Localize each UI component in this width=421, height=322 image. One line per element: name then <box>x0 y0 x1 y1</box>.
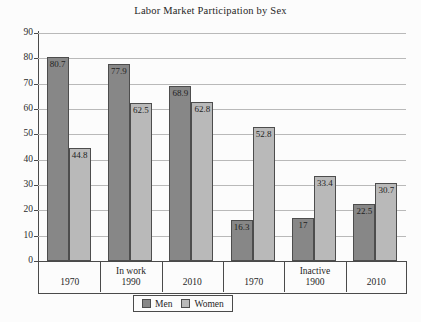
legend-label-men: Men <box>155 299 172 309</box>
chart-container: Labor Market Participation by Sex 010203… <box>0 0 421 322</box>
bar-men: 77.9 <box>108 64 130 261</box>
bars-layer: 80.744.877.962.568.962.816.352.81733.422… <box>38 33 406 261</box>
bar-women: 62.8 <box>191 102 213 261</box>
y-axis-labels: 0102030405060708090 <box>0 33 33 261</box>
bar-group: 22.530.7 <box>345 33 406 261</box>
bar-women: 62.5 <box>130 103 152 261</box>
bar-value-label: 68.9 <box>170 89 190 98</box>
y-axis-tick-label: 70 <box>3 79 33 89</box>
x-axis-category-band: 1970In work199020101970Inactive19002010 <box>38 261 407 294</box>
x-axis-category-label: 1970 <box>223 261 284 292</box>
x-axis-category-line: In work <box>116 266 146 278</box>
x-axis-category-line: 1990 <box>121 277 140 289</box>
y-axis-tick-label: 80 <box>3 53 33 63</box>
legend-item-men: Men <box>142 299 172 309</box>
bar-group: 77.962.5 <box>99 33 160 261</box>
bar-men: 17 <box>292 218 314 261</box>
bar-value-label: 30.7 <box>376 186 396 195</box>
y-axis-tick-label: 0 <box>3 256 33 266</box>
x-axis-category-label: Inactive1900 <box>284 261 345 292</box>
bar-value-label: 22.5 <box>354 207 374 216</box>
x-axis-category-line: Inactive <box>300 266 331 278</box>
legend-label-women: Women <box>194 299 223 309</box>
legend-item-women: Women <box>181 299 223 309</box>
bar-women: 33.4 <box>314 176 336 261</box>
bar-value-label: 77.9 <box>109 67 129 76</box>
bar-value-label: 62.5 <box>131 106 151 115</box>
x-axis-category-line: 1900 <box>305 277 324 289</box>
bar-women: 30.7 <box>375 183 397 261</box>
y-axis-tick-label: 30 <box>3 180 33 190</box>
bar-value-label: 52.8 <box>254 130 274 139</box>
legend-swatch-men-icon <box>142 299 151 308</box>
chart-title: Labor Market Participation by Sex <box>0 5 421 16</box>
x-axis-category-label: 2010 <box>346 261 407 292</box>
y-axis-tick-label: 20 <box>3 205 33 215</box>
x-axis-category-separator <box>162 261 163 292</box>
bar-group: 16.352.8 <box>222 33 283 261</box>
legend-swatch-women-icon <box>181 299 190 308</box>
x-axis-category-label: 2010 <box>162 261 223 292</box>
x-axis-category-separator <box>346 261 347 292</box>
bar-value-label: 16.3 <box>232 223 252 232</box>
bar-men: 80.7 <box>47 57 69 261</box>
bar-group: 80.744.8 <box>38 33 99 261</box>
bar-men: 16.3 <box>231 220 253 261</box>
y-axis-tick-label: 60 <box>3 104 33 114</box>
bar-value-label: 33.4 <box>315 179 335 188</box>
x-axis-category-separator <box>223 261 224 292</box>
x-axis-category-line: 1970 <box>60 277 79 289</box>
x-axis-category-label: In work1990 <box>100 261 161 292</box>
bar-group: 1733.4 <box>283 33 344 261</box>
y-axis-tick-label: 10 <box>3 231 33 241</box>
bar-men: 22.5 <box>353 204 375 261</box>
x-axis-category-line: 2010 <box>183 277 202 289</box>
y-axis-tick-label: 40 <box>3 155 33 165</box>
bar-value-label: 62.8 <box>192 105 212 114</box>
y-axis-tick-label: 90 <box>3 28 33 38</box>
bar-women: 44.8 <box>69 148 91 261</box>
y-axis-tick-label: 50 <box>3 129 33 139</box>
bar-value-label: 44.8 <box>70 151 90 160</box>
bar-value-label: 80.7 <box>48 60 68 69</box>
chart-legend: Men Women <box>133 295 233 312</box>
x-axis-category-line: 2010 <box>367 277 386 289</box>
bar-group: 68.962.8 <box>161 33 222 261</box>
bar-men: 68.9 <box>169 86 191 261</box>
x-axis-category-label: 1970 <box>39 261 100 292</box>
bar-value-label: 17 <box>293 221 313 230</box>
bar-women: 52.8 <box>253 127 275 261</box>
x-axis-category-line: 1970 <box>244 277 263 289</box>
x-axis-category-separator <box>100 261 101 292</box>
x-axis-category-separator <box>284 261 285 292</box>
